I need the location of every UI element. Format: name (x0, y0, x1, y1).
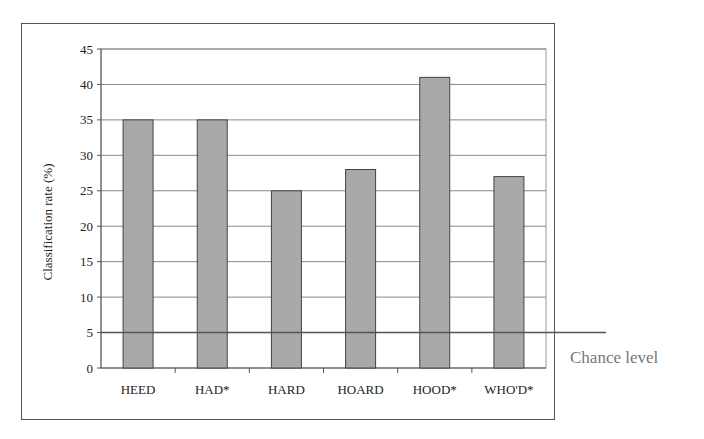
x-tick-label: HAD* (195, 382, 230, 397)
y-axis-label: Classification rate (%) (40, 164, 56, 281)
bar-whod (494, 177, 524, 368)
bar-had (197, 120, 227, 368)
x-tick-label: HOOD* (413, 382, 457, 397)
y-tick-label: 25 (80, 183, 93, 198)
bar-chart: 051015202530354045HEEDHAD*HARDHOARDHOOD*… (0, 0, 704, 439)
y-tick-label: 0 (87, 361, 94, 376)
y-tick-label: 40 (80, 77, 93, 92)
y-tick-label: 30 (80, 148, 93, 163)
x-tick-label: WHO'D* (484, 382, 533, 397)
bar-heed (123, 120, 153, 368)
x-tick-label: HEED (121, 382, 156, 397)
y-tick-label: 5 (87, 325, 94, 340)
x-tick-label: HARD (268, 382, 305, 397)
bar-hood (420, 77, 450, 368)
chance-level-label: Chance level (570, 348, 658, 368)
bar-hard (271, 191, 301, 368)
y-tick-label: 20 (80, 219, 93, 234)
y-tick-label: 35 (80, 112, 93, 127)
bar-hoard (346, 170, 376, 368)
x-tick-label: HOARD (337, 382, 383, 397)
y-tick-label: 15 (80, 254, 93, 269)
y-tick-label: 10 (80, 290, 93, 305)
y-tick-label: 45 (80, 42, 93, 57)
plot-area (101, 49, 546, 368)
